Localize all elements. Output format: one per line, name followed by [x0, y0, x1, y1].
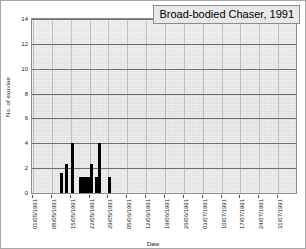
- chart-title: Broad-bodied Chaser, 1991: [153, 5, 300, 24]
- y-axis-title-text: No. of exuviae: [5, 77, 11, 117]
- x-axis-tick-mark: [221, 195, 222, 198]
- x-axis-tick-mark: [164, 195, 165, 198]
- x-axis-tick-label: 15/05/1991: [70, 199, 77, 229]
- x-axis-tick-mark: [145, 195, 146, 198]
- y-axis-tick-label: 14: [21, 16, 28, 22]
- bars-series: [32, 19, 296, 193]
- x-axis-title: Date: [1, 241, 305, 247]
- y-axis-tick-label: 10: [21, 66, 28, 72]
- x-axis-tick-label: 08/05/1991: [51, 199, 58, 229]
- x-axis-tick-label: 22/05/1991: [89, 199, 96, 229]
- x-axis-tick-label: 31/07/1991: [277, 199, 284, 229]
- y-axis-tick-label: 4: [25, 140, 28, 146]
- y-axis-tick-label: 6: [25, 115, 28, 121]
- x-axis-tick-mark: [258, 195, 259, 198]
- x-axis-tick-mark: [239, 195, 240, 198]
- y-axis-tick-labels: 02468101214: [15, 1, 30, 196]
- bar: [90, 164, 93, 193]
- bar: [65, 164, 68, 193]
- y-axis-tick-label: 2: [25, 165, 28, 171]
- x-axis-tick-mark: [32, 195, 33, 198]
- x-axis-tick-mark: [183, 195, 184, 198]
- x-axis-tick-mark: [202, 195, 203, 198]
- x-axis-tick-label: 03/07/1991: [202, 199, 209, 229]
- plot-area: [31, 18, 297, 194]
- bar: [98, 143, 101, 193]
- x-axis-tick-label: 24/07/1991: [258, 199, 265, 229]
- y-axis-tick-label: 12: [21, 41, 28, 47]
- bar: [71, 143, 74, 193]
- x-axis-tick-label: 10/07/1991: [221, 199, 228, 229]
- x-axis-tick-mark: [70, 195, 71, 198]
- x-axis-tick-mark: [277, 195, 278, 198]
- x-axis-tick-mark: [126, 195, 127, 198]
- chart-figure: No. of exuviae 02468101214 Broad-bodied …: [0, 0, 306, 249]
- x-axis-tick-label: 05/06/1991: [126, 199, 133, 229]
- x-axis-tick-label: 17/07/1991: [239, 199, 246, 229]
- x-axis-tick-label: 12/06/1991: [145, 199, 152, 229]
- y-axis-title: No. of exuviae: [1, 1, 15, 193]
- x-axis-tick-mark: [107, 195, 108, 198]
- x-axis-tick-mark: [51, 195, 52, 198]
- x-axis-tick-label: 29/05/1991: [107, 199, 114, 229]
- x-axis-tick-labels: 01/05/199108/05/199115/05/199122/05/1991…: [31, 195, 297, 243]
- bar: [108, 177, 111, 193]
- x-axis-tick-label: 26/06/1991: [183, 199, 190, 229]
- y-axis-tick-label: 8: [25, 91, 28, 97]
- bar: [60, 173, 63, 193]
- x-axis-tick-mark: [89, 195, 90, 198]
- x-axis-tick-label: 01/05/1991: [32, 199, 39, 229]
- y-axis-tick-label: 0: [25, 190, 28, 196]
- x-axis-tick-label: 19/06/1991: [164, 199, 171, 229]
